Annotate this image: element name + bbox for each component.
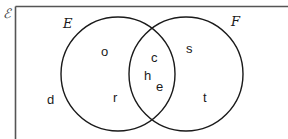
set-e-circle xyxy=(61,17,175,131)
universal-set-symbol: ℰ xyxy=(3,6,12,21)
set-f-label: F xyxy=(230,14,241,29)
element-t: t xyxy=(203,90,207,105)
element-c: c xyxy=(151,50,158,65)
element-e: e xyxy=(156,79,163,94)
element-o: o xyxy=(101,44,108,59)
element-s: s xyxy=(186,41,193,56)
element-r: r xyxy=(113,90,118,105)
element-h: h xyxy=(144,68,151,83)
element-d: d xyxy=(47,92,54,107)
venn-diagram: ℰ E F o r c h e s t d xyxy=(0,0,288,139)
set-e-label: E xyxy=(62,16,73,31)
